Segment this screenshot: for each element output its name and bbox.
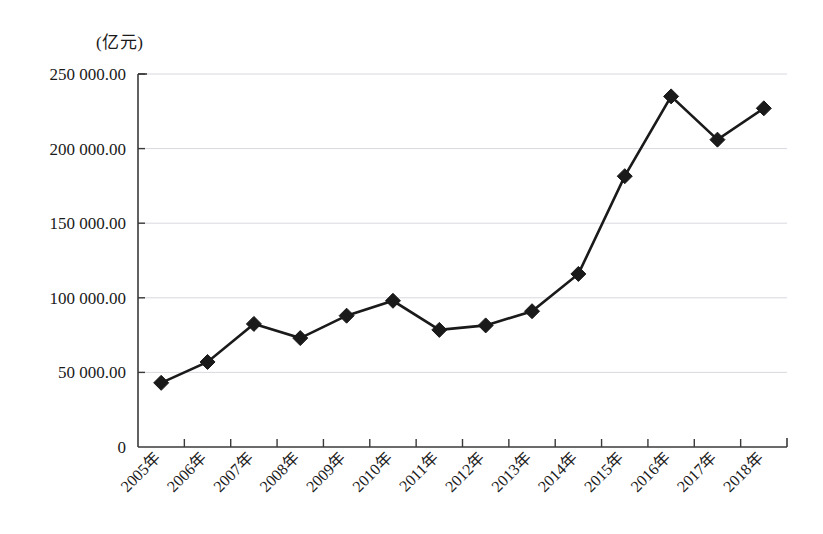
x-tick-label: 2006年 <box>164 449 210 495</box>
y-tick-label: 50 000.00 <box>58 363 126 382</box>
x-axis-ticks <box>184 439 740 447</box>
data-point-marker[interactable] <box>617 169 632 184</box>
data-point-marker[interactable] <box>293 331 308 346</box>
y-tick-label: 200 000.00 <box>50 140 127 159</box>
data-point-marker[interactable] <box>432 322 447 337</box>
x-tick-label: 2016年 <box>627 449 673 495</box>
y-axis-ticks: 050 000.00100 000.00150 000.00200 000.00… <box>50 65 146 457</box>
axes <box>138 74 787 447</box>
data-point-marker[interactable] <box>756 101 771 116</box>
data-point-marker[interactable] <box>478 318 493 333</box>
series-line <box>161 96 764 382</box>
data-point-marker[interactable] <box>154 375 169 390</box>
x-tick-label: 2017年 <box>674 449 720 495</box>
line-chart: (亿元) 050 000.00100 000.00150 000.00200 0… <box>0 0 823 534</box>
x-tick-label: 2018年 <box>720 449 766 495</box>
x-tick-label: 2009年 <box>303 449 349 495</box>
x-tick-label: 2008年 <box>256 449 302 495</box>
x-tick-label: 2013年 <box>488 449 534 495</box>
y-tick-label: 100 000.00 <box>50 289 127 308</box>
y-tick-label: 0 <box>118 438 127 457</box>
x-tick-label: 2015年 <box>581 449 627 495</box>
x-tick-label: 2014年 <box>535 449 581 495</box>
y-tick-label: 150 000.00 <box>50 214 127 233</box>
y-tick-label: 250 000.00 <box>50 65 127 84</box>
x-tick-label: 2010年 <box>349 449 395 495</box>
data-point-marker[interactable] <box>385 293 400 308</box>
data-point-marker[interactable] <box>339 308 354 323</box>
data-series <box>154 89 772 390</box>
x-tick-label: 2012年 <box>442 449 488 495</box>
x-tick-label: 2011年 <box>396 449 442 495</box>
chart-plot-area: 050 000.00100 000.00150 000.00200 000.00… <box>0 0 823 534</box>
x-tick-label: 2007年 <box>210 449 256 495</box>
x-axis-labels: 2005年2006年2007年2008年2009年2010年2011年2012年… <box>117 449 766 495</box>
